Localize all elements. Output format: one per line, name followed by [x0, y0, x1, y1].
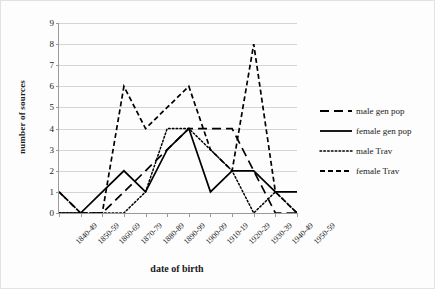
x-axis-title: date of birth: [58, 263, 296, 274]
y-tick-label-1: 1: [50, 187, 55, 196]
y-tick-label-8: 8: [50, 40, 55, 49]
x-tick-label-1910-19: 1910-19: [225, 221, 250, 246]
x-tick-label-1880-89: 1880-89: [160, 221, 185, 246]
y-tick-label-3: 3: [50, 145, 55, 154]
chart-legend: male gen popfemale gen popmale Travfemal…: [319, 101, 431, 181]
x-tick-mark-1940-49: [275, 213, 276, 217]
legend-item-label: male gen pop: [356, 106, 405, 116]
x-tick-label-1940-49: 1940-49: [290, 221, 315, 246]
y-axis-title: number of sources: [15, 57, 29, 177]
x-tick-label-1840-49: 1840-49: [74, 221, 99, 246]
x-tick-mark-1950-59: [297, 213, 298, 217]
legend-item-male-gen-pop[interactable]: male gen pop: [319, 101, 431, 121]
legend-item-female-Trav[interactable]: female Trav: [319, 161, 431, 181]
legend-swatch-icon: [319, 166, 353, 176]
x-tick-mark-1860-69: [102, 213, 103, 217]
x-tick-label-1850-59: 1850-59: [95, 221, 120, 246]
series-line-female-gen-pop: [59, 129, 297, 213]
gridline-0: [59, 213, 297, 214]
legend-item-label: female gen pop: [356, 126, 411, 136]
legend-item-label: male Trav: [356, 146, 392, 156]
x-tick-mark-1920-29: [232, 213, 233, 217]
series-svg: [59, 23, 297, 213]
x-tick-label-1900-09: 1900-09: [204, 221, 229, 246]
x-tick-mark-1880-89: [146, 213, 147, 217]
x-tick-mark-1840-49: [59, 213, 60, 217]
legend-item-label: female Trav: [356, 166, 399, 176]
plot-area: 0123456789 1840-491850-591860-691870-791…: [58, 23, 297, 213]
legend-item-male-Trav[interactable]: male Trav: [319, 141, 431, 161]
x-tick-label-1930-39: 1930-39: [269, 221, 294, 246]
legend-swatch-icon: [319, 106, 353, 116]
chart-figure: number of sources 0123456789 1840-491850…: [0, 0, 435, 289]
x-tick-mark-1890-99: [167, 213, 168, 217]
y-tick-label-9: 9: [50, 19, 55, 28]
legend-swatch-icon: [319, 146, 353, 156]
y-tick-label-6: 6: [50, 82, 55, 91]
y-tick-label-0: 0: [50, 209, 55, 218]
y-tick-label-7: 7: [50, 61, 55, 70]
x-tick-mark-1930-39: [254, 213, 255, 217]
x-tick-label-1950-59: 1950-59: [312, 221, 337, 246]
y-tick-label-2: 2: [50, 166, 55, 175]
y-axis-title-text: number of sources: [17, 80, 27, 154]
x-tick-mark-1850-59: [81, 213, 82, 217]
x-tick-mark-1900-09: [189, 213, 190, 217]
x-tick-label-1890-99: 1890-99: [182, 221, 207, 246]
series-lines: [59, 23, 297, 213]
x-tick-mark-1910-19: [210, 213, 211, 217]
y-tick-label-5: 5: [50, 103, 55, 112]
legend-item-female-gen-pop[interactable]: female gen pop: [319, 121, 431, 141]
x-tick-label-1920-29: 1920-29: [247, 221, 272, 246]
y-tick-label-4: 4: [50, 124, 55, 133]
legend-swatch-icon: [319, 126, 353, 136]
x-tick-label-1870-79: 1870-79: [139, 221, 164, 246]
x-tick-mark-1870-79: [124, 213, 125, 217]
x-tick-label-1860-69: 1860-69: [117, 221, 142, 246]
